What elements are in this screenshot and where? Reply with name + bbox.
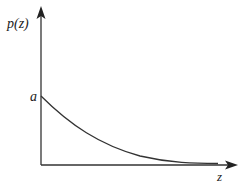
chart: p(z) z a (0, 0, 245, 182)
decay-curve (41, 96, 218, 164)
y-axis-label: p(z) (6, 16, 29, 32)
intercept-label: a (30, 89, 37, 104)
x-axis-label: z (216, 169, 222, 182)
